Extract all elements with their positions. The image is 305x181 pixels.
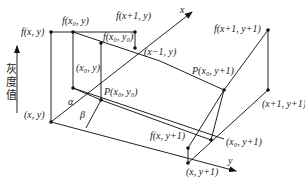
line-P-to-f-x1-y1: [224, 30, 268, 90]
label-beta: β: [79, 109, 85, 120]
label-y-axis: y: [227, 155, 233, 166]
point-x-minus1-y: [133, 46, 137, 50]
label-x0-y: (x₀, y): [76, 62, 101, 74]
point-x0-y: [71, 86, 75, 90]
label-f-x1-y: f(x+1, y): [116, 10, 152, 22]
label-x-y1: (x, y+1): [186, 166, 219, 178]
line-P-to-f-xy1: [188, 90, 224, 148]
point-f-x-y1: [186, 146, 190, 150]
point-P-x0-y1: [222, 88, 226, 92]
point-f-x1-y1: [266, 28, 270, 32]
label-f-x-y1: f(x, y+1): [150, 130, 186, 142]
label-x-y: (x, y): [24, 109, 45, 121]
point-f-x-y: [49, 30, 53, 34]
y-axis: [51, 122, 236, 171]
label-f-x0-y: f(x₀, y): [62, 15, 89, 27]
label-x0-y1: (x₀, y+1): [226, 136, 262, 148]
label-alpha: α: [68, 96, 74, 107]
point-x0-y1: [209, 138, 213, 142]
gray-label-2: 度: [6, 75, 17, 89]
label-x1-y1: (x+1, y+1): [262, 98, 305, 110]
line-x1y1-to-xy1: [188, 90, 268, 163]
gray-label-3: 值: [6, 89, 17, 102]
gray-label-1: 灰: [6, 62, 17, 76]
interpolation-diagram: 灰 度 值 f(x, y) f(x₀, y) f(x+1, y) f(x₀, y…: [0, 0, 305, 181]
label-x-axis: x: [179, 4, 185, 15]
label-P-x0-y0: P(x₀, y₀): [103, 86, 138, 98]
line-x0y-to-right: [73, 88, 224, 139]
diagram-canvas: 灰 度 值 f(x, y) f(x₀, y) f(x+1, y) f(x₀, y…: [0, 0, 305, 181]
label-f-x1-y1: f(x+1, y+1): [214, 23, 261, 35]
label-x-minus1-y: (x−1, y): [144, 46, 177, 58]
point-P-x0-y0: [99, 98, 103, 102]
point-f-x0-y: [71, 30, 75, 34]
label-P-x0-y1: P(x₀, y+1): [191, 65, 235, 77]
point-x-y: [49, 120, 53, 124]
alpha-segment: [73, 88, 101, 100]
beta-segment: [86, 100, 101, 128]
point-x-y1: [186, 161, 190, 165]
point-f-x1-y: [133, 30, 137, 34]
label-f-x0-y0: f(x₀, y₀): [103, 31, 134, 43]
point-x1-y1: [266, 88, 270, 92]
label-f-x-y: f(x, y): [21, 26, 45, 38]
